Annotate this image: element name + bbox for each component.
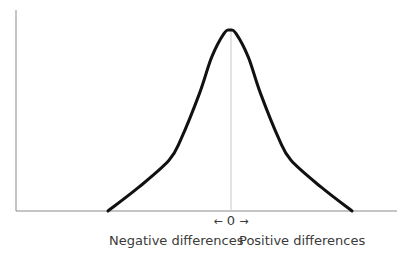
zero-label: ← 0 → [0,213,410,228]
right-arrow-icon: → [239,215,248,228]
distribution-curve [108,30,352,211]
zero-tick-label: 0 [227,213,235,228]
positive-differences-label: Positive differences [239,233,365,248]
negative-differences-label: Negative differences [109,233,244,248]
left-arrow-icon: ← [214,215,223,228]
